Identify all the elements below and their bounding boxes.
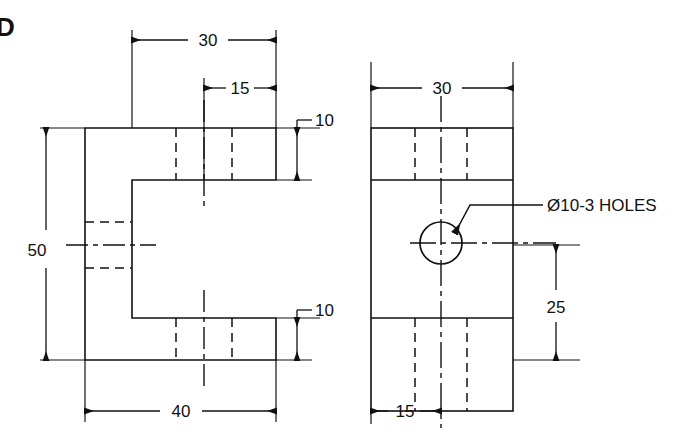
- dim-label-25: 25: [547, 298, 566, 317]
- dimension-side-top-width: 30: [132, 31, 276, 50]
- dim-label-30: 30: [199, 31, 218, 50]
- dim-label-10-upper: 10: [315, 111, 334, 130]
- engineering-drawing-sheet: D: [0, 0, 676, 438]
- dimension-front-width: 30: [371, 79, 513, 98]
- dim-label-10-lower: 10: [315, 301, 334, 320]
- dim-label-front-30: 30: [433, 79, 452, 98]
- dimension-upper-flange-thickness: 10: [297, 111, 334, 180]
- side-view-group: 30 15 50 10: [28, 30, 334, 422]
- dimension-side-top-inner: 15: [204, 79, 276, 98]
- side-view-outline: [85, 128, 276, 360]
- hole-callout-leader: [455, 205, 543, 233]
- dimension-front-hole-height: 25: [547, 245, 566, 360]
- dimension-lower-flange-thickness: 10: [297, 301, 334, 360]
- dim-label-15-top: 15: [231, 79, 250, 98]
- dim-label-front-15: 15: [396, 402, 415, 421]
- dimension-side-height: 50: [28, 128, 47, 360]
- hole-callout-group: Ø10-3 HOLES: [455, 196, 657, 233]
- hole-callout-label: Ø10-3 HOLES: [547, 196, 657, 215]
- dim-label-50: 50: [28, 241, 47, 260]
- sheet-corner-mark: D: [0, 12, 15, 42]
- drawing-canvas: D: [0, 0, 676, 438]
- front-view-outline: [371, 128, 513, 411]
- dim-label-40: 40: [172, 402, 191, 421]
- front-view-group: Ø10-3 HOLES 30 25: [371, 62, 657, 428]
- dimension-front-hole-offset: 15: [371, 402, 441, 421]
- dimension-side-width: 40: [85, 402, 276, 421]
